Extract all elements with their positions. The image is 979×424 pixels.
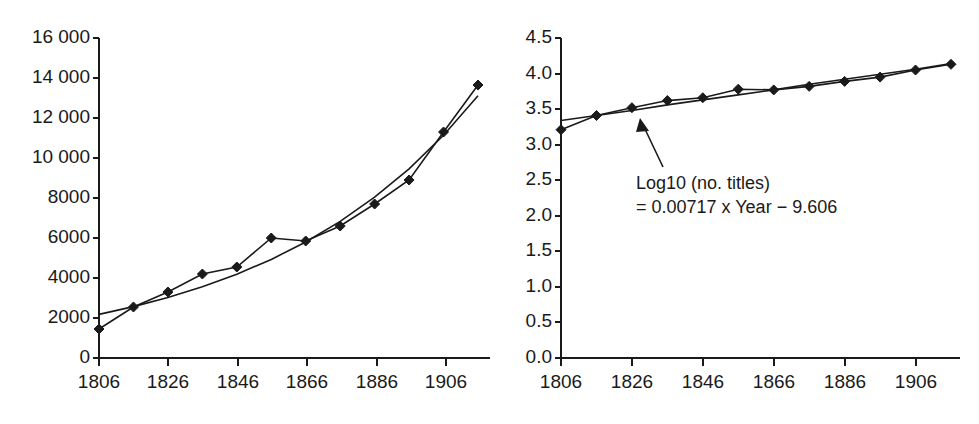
y-tick-label: 4000: [48, 266, 90, 287]
y-tick-label: 0.0: [526, 346, 552, 367]
y-tick-label: 4.0: [526, 62, 552, 83]
y-tick-label: 3.5: [526, 97, 552, 118]
data-point-marker: [591, 111, 601, 121]
x-tick-label: 1866: [286, 371, 328, 392]
y-tick-label: 2000: [48, 306, 90, 327]
y-tick-label: 2.0: [526, 204, 552, 225]
x-tick-label: 1846: [217, 371, 259, 392]
x-tick-label: 1826: [611, 371, 653, 392]
data-point-marker: [163, 287, 173, 297]
data-point-marker: [840, 76, 850, 86]
annotation-arrow-head: [636, 118, 649, 132]
fit-equation-line2: = 0.00717 x Year − 9.606: [636, 197, 837, 217]
y-tick-label: 0: [79, 346, 90, 367]
data-point-marker: [733, 84, 743, 94]
y-tick-label: 0.5: [526, 310, 552, 331]
y-tick-label: 6000: [48, 226, 90, 247]
x-tick-label: 1866: [753, 371, 795, 392]
data-point-marker: [804, 81, 814, 91]
x-tick-label: 1886: [356, 371, 398, 392]
two-panel-figure: 0 2000 4000 6000 8000 10 000 12 000 14 0…: [0, 0, 979, 424]
y-tick-label: 14 000: [32, 66, 90, 87]
annotation-arrow-shaft: [644, 127, 663, 167]
linear-scale-plot: 0 2000 4000 6000 8000 10 000 12 000 14 0…: [0, 0, 490, 424]
x-tick-label: 1826: [147, 371, 189, 392]
data-point-marker: [128, 302, 138, 312]
linear-fit-line: [561, 64, 951, 121]
x-tick-label: 1906: [425, 371, 467, 392]
y-tick-label: 1.5: [526, 239, 552, 260]
exponential-fit-curve: [99, 96, 478, 315]
data-point-marker: [911, 65, 921, 75]
data-point-marker: [335, 221, 345, 231]
data-point-marker: [698, 93, 708, 103]
y-tick-label: 16 000: [32, 26, 90, 47]
x-tick-label: 1806: [78, 371, 120, 392]
x-tick-label: 1846: [682, 371, 724, 392]
y-tick-label: 4.5: [526, 26, 552, 47]
y-tick-label: 10 000: [32, 146, 90, 167]
x-tick-label: 1886: [824, 371, 866, 392]
data-point-markers: [94, 80, 483, 334]
data-point-marker: [404, 175, 414, 185]
x-tick-label: 1906: [895, 371, 937, 392]
y-tick-label: 1.0: [526, 275, 552, 296]
data-series-line: [99, 85, 478, 329]
data-point-marker: [769, 85, 779, 95]
data-point-marker: [946, 59, 956, 69]
y-tick-label: 3.0: [526, 133, 552, 154]
data-series-line: [561, 64, 951, 129]
data-point-markers: [556, 59, 956, 134]
log-scale-plot: 0.0 0.5 1.0 1.5 2.0 2.5 3.0 3.5 4.0 4.5: [490, 0, 979, 424]
data-point-marker: [94, 324, 104, 334]
fit-equation-line1: Log10 (no. titles): [636, 173, 770, 193]
y-tick-label: 2.5: [526, 168, 552, 189]
y-tick-label: 12 000: [32, 106, 90, 127]
x-tick-label: 1806: [540, 371, 582, 392]
chart-panel-log: 0.0 0.5 1.0 1.5 2.0 2.5 3.0 3.5 4.0 4.5: [490, 0, 979, 424]
chart-panel-linear: 0 2000 4000 6000 8000 10 000 12 000 14 0…: [0, 0, 490, 424]
data-point-marker: [197, 269, 207, 279]
data-point-marker: [556, 125, 566, 135]
y-tick-label: 8000: [48, 186, 90, 207]
